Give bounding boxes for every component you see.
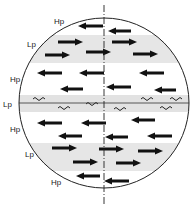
arrow-left-icon bbox=[79, 69, 104, 76]
arrow-left-icon bbox=[106, 83, 131, 90]
arrow-left-icon bbox=[37, 69, 62, 76]
arrow-left-icon bbox=[139, 69, 164, 76]
arrow-left-icon bbox=[37, 119, 62, 126]
arrow-left-icon bbox=[58, 132, 82, 139]
arrow-left-icon bbox=[81, 119, 106, 126]
circulation-diagram bbox=[0, 0, 191, 210]
arrow-left-icon bbox=[105, 133, 128, 140]
arrow-left-icon bbox=[131, 116, 155, 123]
arrow-left-icon bbox=[154, 86, 176, 93]
arrow-left-icon bbox=[104, 177, 129, 184]
pressure-label-hp: Hp bbox=[51, 178, 61, 187]
pressure-label-hp: Hp bbox=[10, 75, 20, 84]
pressure-label-hp: Hp bbox=[54, 17, 64, 26]
pressure-label-hp: Hp bbox=[10, 125, 20, 134]
pressure-label-lp: Lp bbox=[3, 100, 12, 109]
band-Lp-equator bbox=[0, 95, 191, 112]
arrow-left-icon bbox=[78, 22, 103, 29]
arrow-left-icon bbox=[76, 172, 100, 179]
pressure-label-lp: Lp bbox=[25, 150, 34, 159]
arrow-left-icon bbox=[108, 27, 131, 34]
pressure-label-lp: Lp bbox=[27, 40, 36, 49]
arrow-left-icon bbox=[60, 85, 83, 92]
arrow-left-icon bbox=[147, 132, 172, 139]
